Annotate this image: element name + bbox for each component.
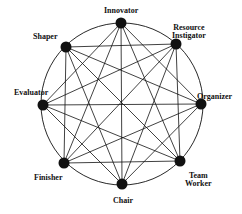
label-organizer: Organizer: [197, 93, 232, 101]
edge-resource-investigator-team-worker: [176, 44, 180, 161]
label-line: Instigator: [172, 32, 206, 40]
node-evaluator: [38, 100, 49, 111]
node-chair: [117, 179, 128, 190]
label-innovator: Innovator: [104, 7, 138, 15]
label-chair: Chair: [113, 197, 133, 205]
node-shaper: [61, 42, 72, 53]
node-team-worker: [175, 156, 186, 167]
label-team-worker: Team Worker: [185, 172, 212, 188]
node-finisher: [59, 158, 70, 169]
node-resource-investigator: [171, 39, 182, 50]
label-evaluator: Evaluator: [14, 89, 48, 97]
edge-innovator-chair: [121, 23, 122, 184]
label-resource-investigator: Resource Instigator: [172, 24, 206, 40]
edge-organizer-evaluator: [43, 104, 201, 105]
label-line: Worker: [185, 180, 212, 188]
edge-organizer-shaper: [66, 47, 201, 104]
label-shaper: Shaper: [33, 33, 57, 41]
label-finisher: Finisher: [34, 174, 62, 182]
edge-chair-shaper: [66, 47, 122, 184]
node-innovator: [116, 18, 127, 29]
